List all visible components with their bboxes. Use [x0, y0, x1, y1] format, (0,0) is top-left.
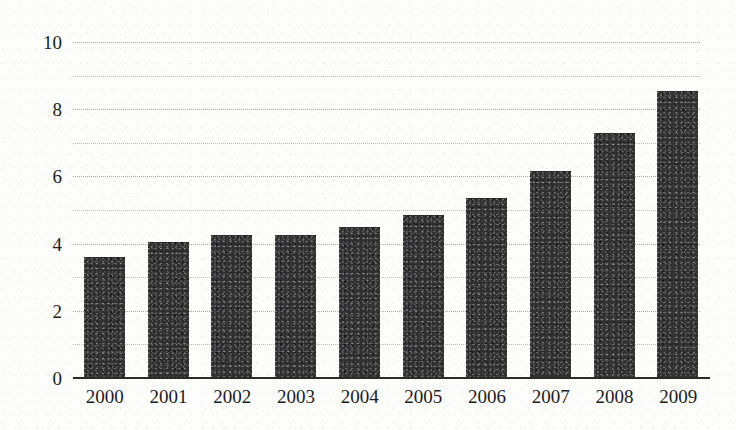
bar-slot — [73, 42, 137, 378]
bar-2003 — [275, 235, 316, 378]
x-axis-tick-label-2004: 2004 — [328, 384, 392, 410]
y-axis: 0246810 — [0, 42, 62, 378]
bar-2005 — [403, 215, 444, 378]
y-axis-tick-label: 2 — [16, 301, 62, 320]
bar-slot — [264, 42, 328, 378]
y-axis-tick-label: 0 — [16, 369, 62, 388]
bar-slot — [137, 42, 201, 378]
x-axis-tick-label-2009: 2009 — [646, 384, 710, 410]
x-axis-tick-label-2003: 2003 — [264, 384, 328, 410]
y-axis-tick-label: 4 — [16, 234, 62, 253]
y-axis-tick-label: 6 — [16, 167, 62, 186]
bar-chart-figure: 0246810 20002001200220032004200520062007… — [0, 0, 736, 430]
bar-slot — [583, 42, 647, 378]
bar-2007 — [530, 171, 571, 378]
bar-2001 — [148, 242, 189, 378]
x-axis: 2000200120022003200420052006200720082009 — [73, 384, 710, 414]
bar-slot — [200, 42, 264, 378]
x-axis-tick-label-2008: 2008 — [583, 384, 647, 410]
bar-2008 — [594, 133, 635, 378]
bar-slot — [392, 42, 456, 378]
bar-slot — [328, 42, 392, 378]
bar-2004 — [339, 227, 380, 378]
bar-slot — [646, 42, 710, 378]
x-axis-tick-label-2005: 2005 — [392, 384, 456, 410]
bar-2006 — [466, 198, 507, 378]
bar-slot — [519, 42, 583, 378]
bar-2002 — [211, 235, 252, 378]
x-axis-tick-label-2007: 2007 — [519, 384, 583, 410]
x-axis-line — [73, 377, 710, 379]
bar-series — [73, 42, 710, 378]
y-axis-tick-label: 10 — [16, 33, 62, 52]
bar-2009 — [657, 91, 698, 378]
bar-2000 — [84, 257, 125, 378]
y-axis-tick-label: 8 — [16, 100, 62, 119]
x-axis-tick-label-2001: 2001 — [137, 384, 201, 410]
x-axis-tick-label-2002: 2002 — [200, 384, 264, 410]
x-axis-tick-label-2000: 2000 — [73, 384, 137, 410]
bar-slot — [455, 42, 519, 378]
x-axis-tick-label-2006: 2006 — [455, 384, 519, 410]
